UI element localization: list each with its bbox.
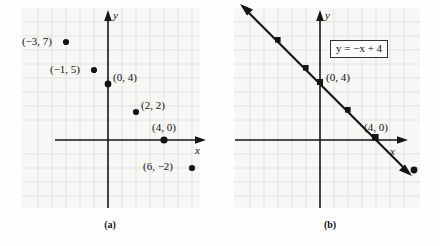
data-point <box>411 167 418 174</box>
axes-svg-b <box>220 0 440 246</box>
data-point <box>63 39 69 45</box>
panel-b: y = −x + 4 (0, 4) (4, 0) y x <box>220 0 440 246</box>
caption-a: (a) <box>0 219 220 230</box>
function-line-b <box>240 4 412 176</box>
x-axis-b <box>235 136 408 144</box>
x-axis-label-b: x <box>390 146 395 157</box>
data-point <box>189 165 195 171</box>
point-label-a-4: (4, 0) <box>152 122 176 133</box>
data-point <box>317 79 323 85</box>
data-point <box>345 107 351 113</box>
point-label-a-3: (2, 2) <box>141 100 165 111</box>
x-axis-label-a: x <box>195 145 200 156</box>
point-label-a-0: (−3, 7) <box>22 36 52 47</box>
grid-lines-b <box>234 8 420 208</box>
data-point <box>303 65 309 71</box>
equation-label-b: y = −x + 4 <box>330 40 388 58</box>
figure-two-panel-coordinate-plots: (−3, 7) (−1, 5) (0, 4) (2, 2) (4, 0) (6,… <box>0 0 440 246</box>
point-label-a-2: (0, 4) <box>113 72 137 83</box>
data-point <box>105 81 112 88</box>
data-points-a <box>63 39 195 171</box>
y-axis-label-a: y <box>113 10 118 21</box>
point-label-b-4-0: (4, 0) <box>364 122 388 133</box>
point-label-b-0-4: (0, 4) <box>326 72 350 83</box>
y-axis-a <box>104 10 112 208</box>
panel-a: (−3, 7) (−1, 5) (0, 4) (2, 2) (4, 0) (6,… <box>0 0 220 246</box>
data-point <box>91 67 97 73</box>
y-axis-label-b: y <box>325 10 330 21</box>
data-point <box>275 37 281 43</box>
data-point <box>372 134 379 141</box>
caption-b: (b) <box>220 219 440 230</box>
point-label-a-1: (−1, 5) <box>50 64 80 75</box>
point-label-a-5: (6, −2) <box>143 161 173 172</box>
x-axis-a <box>55 136 206 144</box>
y-axis-b <box>316 10 324 208</box>
data-point <box>133 109 139 115</box>
data-point <box>160 136 167 143</box>
